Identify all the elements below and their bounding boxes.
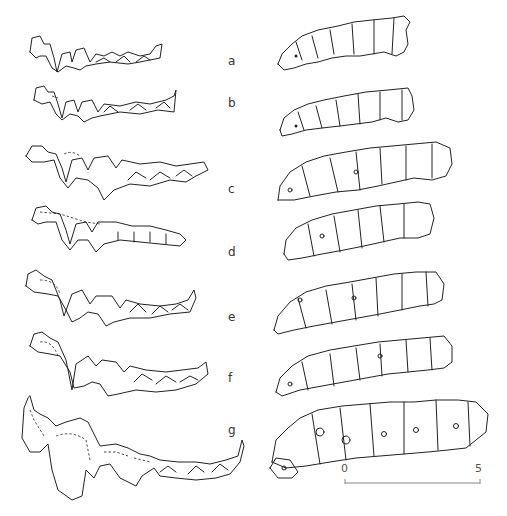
teeth-drawings — [0, 0, 507, 516]
scale-start-label: 0 — [341, 462, 348, 475]
lateral-row-e — [26, 270, 196, 326]
lateral-row-d — [32, 206, 186, 252]
row-label-c: c — [228, 182, 235, 196]
occlusal-row-g — [270, 400, 488, 478]
occlusal-row-a — [278, 16, 410, 70]
row-label-e: e — [228, 310, 235, 324]
row-label-b: b — [228, 96, 236, 110]
occlusal-row-e — [274, 272, 444, 334]
row-label-a: a — [228, 54, 235, 68]
row-label-f: f — [228, 371, 232, 385]
row-label-d: d — [228, 245, 236, 259]
lateral-row-b — [34, 86, 176, 122]
lateral-row-g — [22, 396, 244, 500]
lateral-row-f — [30, 332, 208, 396]
lateral-row-a — [30, 36, 162, 72]
occlusal-row-c — [278, 142, 452, 200]
occlusal-row-f — [276, 336, 452, 396]
lateral-row-c — [26, 146, 208, 200]
scale-bar — [345, 479, 480, 484]
row-label-g: g — [228, 423, 236, 437]
occlusal-row-d — [284, 202, 434, 260]
scale-end-label: 5 — [475, 462, 482, 475]
occlusal-row-b — [280, 88, 414, 136]
